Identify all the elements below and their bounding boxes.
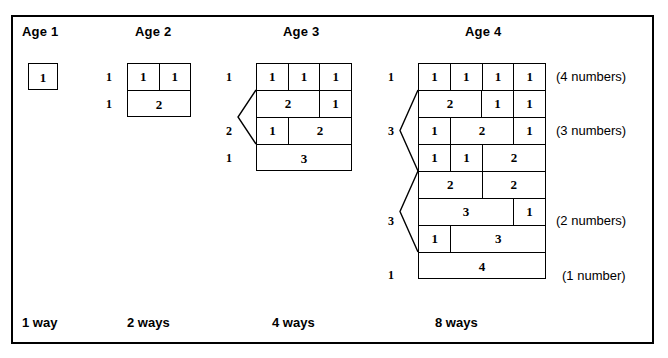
partition-cell: 1 [289, 64, 321, 90]
row-count-label: 1 [388, 70, 394, 85]
partition-cell: 1 [419, 145, 451, 171]
partition-cell: 3 [419, 199, 514, 225]
partition-cell: 1 [482, 91, 514, 117]
age-header-3: Age 3 [283, 24, 319, 39]
partition-cell: 1 [419, 64, 451, 90]
partition-cell: 2 [419, 172, 483, 198]
partition-row: 11 [128, 64, 190, 91]
partition-cell: 1 [514, 199, 545, 225]
partition-row: 121 [419, 118, 545, 145]
partition-cell: 1 [320, 91, 351, 117]
grouping-bracket [238, 90, 256, 144]
partition-cell: 1 [257, 64, 289, 90]
partition-cell: 1 [451, 145, 483, 171]
partition-grid-age-2: 112 [127, 63, 191, 117]
partition-row: 1 [29, 64, 57, 91]
age-header-1: Age 1 [22, 24, 58, 39]
partition-row: 22 [419, 172, 545, 199]
partition-cell: 2 [419, 91, 482, 117]
partition-cell: 1 [160, 64, 191, 90]
partition-row: 112 [419, 145, 545, 172]
partition-cell: 1 [128, 64, 160, 90]
partition-cell: 2 [483, 172, 546, 198]
partition-cell: 1 [257, 118, 289, 144]
numbers-annotation-4: (1 number) [562, 268, 626, 283]
partition-cell: 1 [419, 118, 451, 144]
partition-cell: 1 [514, 64, 545, 90]
partition-cell: 1 [514, 91, 545, 117]
row-count-label: 1 [226, 151, 232, 166]
partition-row: 31 [419, 199, 545, 226]
partition-cell: 1 [419, 226, 451, 252]
partition-row: 211 [419, 91, 545, 118]
row-count-label: 2 [226, 124, 232, 139]
row-count-label: 1 [226, 70, 232, 85]
partition-cell: 1 [320, 64, 351, 90]
numbers-annotation-1: (4 numbers) [556, 69, 626, 84]
grouping-bracket [400, 171, 418, 252]
partition-cell: 1 [483, 64, 515, 90]
ways-label-4: 8 ways [435, 315, 478, 330]
partition-row: 3 [257, 145, 351, 172]
partition-grid-age-4: 11112111211122231134 [418, 63, 546, 279]
partition-row: 13 [419, 226, 545, 253]
partition-row: 21 [257, 91, 351, 118]
ways-label-2: 2 ways [127, 315, 170, 330]
age-header-2: Age 2 [135, 24, 171, 39]
partition-cell: 1 [29, 64, 57, 91]
row-count-label: 1 [106, 70, 112, 85]
age-header-4: Age 4 [465, 24, 501, 39]
partition-row: 4 [419, 253, 545, 280]
row-count-label: 3 [388, 124, 394, 139]
partition-cell: 2 [289, 118, 351, 144]
partition-cell: 1 [451, 64, 483, 90]
partition-row: 2 [128, 91, 190, 118]
partition-cell: 4 [419, 253, 545, 280]
partition-cell: 2 [128, 91, 190, 118]
partition-cell: 2 [483, 145, 545, 171]
partition-cell: 3 [257, 145, 351, 172]
partition-row: 12 [257, 118, 351, 145]
numbers-annotation-3: (2 numbers) [556, 213, 626, 228]
partition-cell: 3 [451, 226, 545, 252]
row-count-label: 3 [388, 214, 394, 229]
row-count-label: 1 [106, 97, 112, 112]
row-count-label: 1 [388, 268, 394, 283]
ways-label-1: 1 way [22, 315, 57, 330]
partition-grid-age-3: 11121123 [256, 63, 352, 171]
partition-row: 1111 [419, 64, 545, 91]
partition-cell: 2 [451, 118, 514, 144]
partition-cell: 2 [257, 91, 320, 117]
partition-grid-age-1: 1 [28, 63, 58, 90]
numbers-annotation-2: (3 numbers) [556, 123, 626, 138]
partition-cell: 1 [514, 118, 545, 144]
partition-row: 111 [257, 64, 351, 91]
ways-label-3: 4 ways [272, 315, 315, 330]
grouping-bracket [400, 90, 418, 171]
